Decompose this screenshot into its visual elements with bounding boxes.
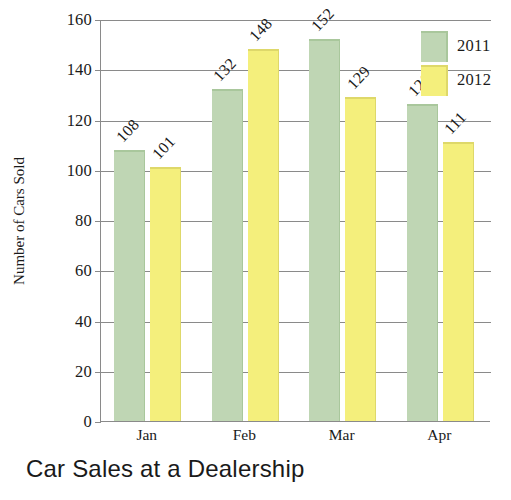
x-axis-label-mar: Mar	[329, 426, 355, 444]
tick-mark	[95, 171, 101, 172]
legend-swatch-2012-icon	[421, 65, 448, 96]
y-axis-tick-label: 120	[67, 111, 92, 131]
bar-fill	[114, 150, 145, 421]
y-axis-title: Number of Cars Sold	[11, 157, 28, 285]
bar-fill	[309, 39, 340, 421]
x-axis-label-feb: Feb	[233, 426, 256, 444]
bar-feb-2011: 132	[212, 89, 243, 421]
bar-fill	[407, 104, 438, 421]
bar-fill	[345, 97, 376, 421]
x-axis-label-jan: Jan	[136, 426, 157, 444]
bar-apr-2011: 126	[407, 104, 438, 421]
tick-mark	[95, 422, 101, 423]
y-axis-tick-label: 0	[84, 412, 92, 432]
bar-fill	[443, 142, 474, 421]
legend-label-2012: 2012	[457, 70, 491, 90]
tick-mark	[95, 70, 101, 71]
tick-mark	[95, 271, 101, 272]
legend-label-2011: 2011	[457, 36, 491, 56]
y-axis-tick-label: 160	[67, 10, 92, 30]
x-axis-label-apr: Apr	[427, 426, 451, 444]
y-axis-tick-label: 40	[75, 312, 92, 332]
bar-mar-2011: 152	[309, 39, 340, 421]
y-axis-tick-label: 80	[75, 211, 92, 231]
bar-chart: Number of Cars Sold 02040608010012014016…	[0, 0, 511, 500]
bar-value-label: 101	[149, 133, 179, 163]
tick-mark	[95, 372, 101, 373]
bar-value-label: 111	[441, 109, 470, 139]
gridline	[101, 20, 491, 21]
chart-title: Car Sales at a Dealership	[26, 455, 304, 483]
legend-item-2011: 2011	[421, 30, 505, 64]
bar-value-label: 152	[308, 5, 338, 35]
tick-mark	[95, 20, 101, 21]
y-axis-tick-label: 100	[67, 161, 92, 181]
legend-item-2012: 2012	[421, 64, 505, 98]
legend: 2011 2012	[421, 30, 505, 98]
y-axis-tick-label: 140	[67, 60, 92, 80]
bar-value-label: 129	[344, 62, 374, 92]
y-axis-tick-label: 60	[75, 261, 92, 281]
y-axis-tick-label: 20	[75, 362, 92, 382]
bar-jan-2011: 108	[114, 150, 145, 421]
tick-mark	[95, 322, 101, 323]
bar-jan-2012: 101	[150, 167, 181, 421]
bar-feb-2012: 148	[248, 49, 279, 421]
legend-swatch-2011-icon	[421, 31, 448, 62]
tick-mark	[95, 221, 101, 222]
tick-mark	[95, 121, 101, 122]
bar-fill	[150, 167, 181, 421]
bar-mar-2012: 129	[345, 97, 376, 421]
bar-apr-2012: 111	[443, 142, 474, 421]
bar-fill	[248, 49, 279, 421]
bar-value-label: 132	[210, 55, 240, 85]
bar-fill	[212, 89, 243, 421]
